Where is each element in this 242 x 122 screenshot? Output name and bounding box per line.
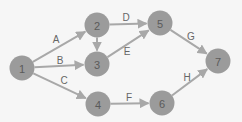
node-label: 3 <box>94 59 100 71</box>
node-3: 3 <box>85 52 110 77</box>
edge-label: E <box>124 46 131 57</box>
edge-3-5: E <box>107 30 148 57</box>
node-label: 5 <box>157 18 163 30</box>
edge-label: G <box>187 31 195 42</box>
edge-label: F <box>126 92 132 103</box>
node-label: 7 <box>215 56 221 68</box>
node-6: 6 <box>150 91 175 116</box>
edge-6-7: H <box>172 69 207 95</box>
edge-label: C <box>60 75 67 86</box>
edge-label: A <box>53 34 60 45</box>
node-4: 4 <box>86 92 111 117</box>
edge-label: D <box>122 12 129 23</box>
edge-2-5: D <box>109 12 146 25</box>
node-label: 4 <box>95 99 101 111</box>
node-label: 2 <box>94 20 100 32</box>
arrow-icon <box>110 103 148 104</box>
node-2: 2 <box>85 13 110 38</box>
node-7: 7 <box>206 49 231 74</box>
edge-label: H <box>183 72 190 83</box>
node-1: 1 <box>10 56 35 81</box>
edge-label: B <box>57 55 64 66</box>
node-label: 1 <box>19 63 25 75</box>
node-5: 5 <box>148 11 173 36</box>
arrow-icon <box>109 23 146 24</box>
node-label: 6 <box>159 98 165 110</box>
edge-4-6: F <box>110 92 148 104</box>
edge-5-7: G <box>170 30 206 54</box>
network-diagram: ABCDEFGH 1234567 <box>0 0 242 122</box>
edge-1-4: C <box>33 73 86 98</box>
